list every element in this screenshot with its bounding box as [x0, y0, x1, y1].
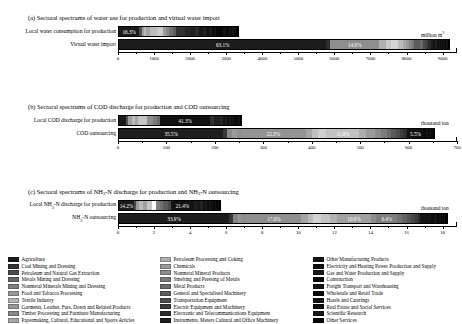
bar-segment — [420, 214, 431, 223]
axis-cap-left — [118, 137, 119, 141]
bar-segment — [313, 214, 321, 223]
legend-item: General and Specialised Machinery — [160, 290, 278, 297]
axis-tick-label: 0 — [117, 230, 119, 235]
stacked-bar: 63.1%14.8% — [118, 39, 450, 50]
axis-tick-label: 12 — [332, 230, 337, 235]
axis-tick-major — [118, 52, 119, 55]
legend-item: Agriculture — [8, 256, 135, 263]
legend-swatch — [8, 257, 19, 262]
axis-tick-minor — [388, 52, 389, 54]
legend-item: Electricity and Heating Power Production… — [313, 263, 436, 270]
legend-label: Coal Mining and Dressing — [22, 263, 76, 270]
axis-tick-major — [443, 52, 444, 55]
legend: AgricultureCoal Mining and DressingPetro… — [0, 256, 462, 321]
legend-item: Gas and Water Production and Supply — [313, 270, 436, 277]
bar-segment — [330, 214, 337, 223]
stacked-bar: 16.3% — [118, 26, 239, 37]
legend-label: Nonmetal Minerals Mining and Dressing — [22, 283, 106, 290]
legend-item: Electronic and Telecommunications Equipm… — [160, 310, 278, 317]
bar-segment — [240, 116, 241, 125]
segment-percent-label: 33.9% — [119, 216, 229, 222]
axis-tick-major — [262, 226, 263, 229]
segment-percent-label: 10.6% — [337, 216, 371, 222]
legend-label: Electricity and Heating Power Production… — [327, 263, 437, 270]
stacked-bar: 33.9%17.0%10.6%6.4% — [118, 213, 448, 224]
legend-swatch — [160, 257, 171, 262]
bar-row-label: Local COD discharge for production — [0, 115, 118, 126]
axis-tick-label: 10 — [296, 230, 301, 235]
bar-segment — [219, 201, 220, 210]
bar-segment: 10.6% — [337, 214, 371, 223]
legend-label: Textile Industry — [22, 297, 54, 304]
legend-item: Instruments, Meters Cultural and Office … — [160, 317, 278, 324]
segment-percent-label: 14.8% — [330, 42, 379, 48]
legend-label: Agriculture — [22, 256, 45, 263]
legend-swatch — [313, 277, 324, 282]
axis-tick-label: 7000 — [366, 56, 376, 61]
axis-tick-major — [190, 52, 191, 55]
bar-row-label: Virtual water import — [0, 39, 118, 50]
legend-swatch — [313, 304, 324, 309]
legend-label: Wholesale and Retail Trade — [327, 290, 383, 297]
legend-item: Other Manufacturing Products — [313, 256, 436, 263]
legend-swatch — [160, 264, 171, 269]
axis-tick-label: 3000 — [221, 56, 231, 61]
axis-tick-major — [298, 226, 299, 229]
segment-percent-label: 22.3% — [241, 131, 306, 137]
legend-item: Nonmetal Mineral Products — [160, 270, 278, 277]
axis-tick-label: 600 — [405, 145, 412, 150]
legend-item: Transportation Equipment — [160, 297, 278, 304]
segment-percent-label: 63.1% — [119, 42, 326, 48]
axis-tick-label: 500 — [357, 145, 364, 150]
bar-segment: 17.0% — [246, 214, 301, 223]
axis-tick-label: 4000 — [257, 56, 267, 61]
panel-c-title-sub1: 3 — [103, 191, 105, 196]
axis-tick-label: 2 — [153, 230, 155, 235]
axis-tick-major — [190, 226, 191, 229]
axis-tick-major — [154, 52, 155, 55]
axis-cap-right — [456, 222, 457, 226]
legend-label: Scientific Research — [327, 310, 366, 317]
legend-label: Real Estate and Social Services — [327, 304, 391, 311]
bar-segment: 41.3% — [160, 116, 210, 125]
legend-label: Transportation Equipment — [174, 297, 227, 304]
axis-tick-label: 6 — [225, 230, 227, 235]
panel-a: (a) Sectoral spectrums of water use for … — [0, 14, 462, 22]
legend-swatch — [8, 298, 19, 303]
axis-tick-minor — [244, 226, 245, 228]
legend-swatch — [8, 284, 19, 289]
legend-label: Petroleum and Natural Gas Extraction — [22, 270, 100, 277]
legend-column: Other Manufacturing ProductsElectricity … — [313, 256, 436, 324]
x-axis: 0100020003000400050006000700080009000 — [118, 52, 457, 66]
segment-percent-label: 6.4% — [376, 216, 397, 222]
legend-item: Smelting and Pressing of Metals — [160, 276, 278, 283]
panel-b-title: (b) Sectoral spectrums of COD discharge … — [0, 103, 462, 111]
legend-label: Chemicals — [174, 263, 196, 270]
legend-swatch — [313, 291, 324, 296]
bar-segment: 21.4% — [171, 201, 193, 210]
legend-item: Other Services — [313, 317, 436, 324]
axis-tick-label: 18 — [440, 230, 445, 235]
axis-tick-minor — [208, 226, 209, 228]
axis-unit-label: million m3 — [421, 31, 444, 38]
axis-tick-label: 100 — [163, 145, 170, 150]
axis-tick-label: 400 — [308, 145, 315, 150]
axis-tick-major — [263, 141, 264, 144]
legend-label: Gas and Water Production and Supply — [327, 270, 405, 277]
axis-tick-label: 16 — [404, 230, 409, 235]
axis-tick-major — [409, 141, 410, 144]
axis-tick-major — [360, 141, 361, 144]
legend-swatch — [313, 257, 324, 262]
legend-label: Smelting and Pressing of Metals — [174, 276, 240, 283]
bar-segment: 14.2% — [119, 201, 134, 210]
legend-swatch — [313, 264, 324, 269]
legend-swatch — [313, 318, 324, 323]
axis-tick-minor — [352, 52, 353, 54]
axis-tick-major — [262, 52, 263, 55]
axis-tick-major — [118, 226, 119, 229]
axis-tick-major — [334, 52, 335, 55]
bar-row-label: Local water consumption for production — [0, 26, 118, 37]
legend-label: Food and Tobacco Processing — [22, 290, 83, 297]
axis-tick-major — [166, 141, 167, 144]
legend-item: Electric Equipment and Machinery — [160, 304, 278, 311]
